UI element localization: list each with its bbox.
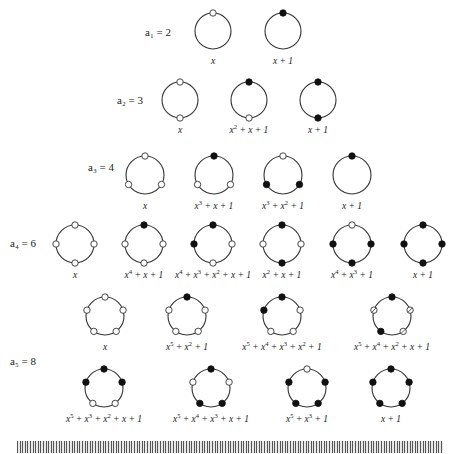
- necklace-ring: [231, 82, 267, 118]
- bead-open: [125, 181, 131, 187]
- necklace: x4 + x3 + 1: [330, 222, 374, 280]
- bead-filled: [286, 379, 292, 385]
- diagram-row-5: a₅ = 8xx5 + x2 + 1x5 + x4 + x3 + x2 + 1x…: [10, 294, 430, 367]
- bead-open: [173, 328, 179, 334]
- bead-open: [120, 307, 126, 313]
- bead-open: [227, 181, 233, 187]
- bead-filled: [246, 79, 252, 85]
- bead-filled: [315, 79, 321, 85]
- bead-filled: [378, 328, 384, 334]
- bead-filled: [279, 222, 285, 228]
- bead-filled: [401, 241, 407, 247]
- diagram-row-2: a₂ = 3xx2 + x + 1x + 1: [117, 79, 336, 135]
- necklace: x: [162, 79, 198, 135]
- necklace: x: [195, 10, 231, 66]
- necklace-ring: [195, 13, 231, 49]
- necklace-ring: [195, 156, 233, 194]
- row-count-label: a₅ = 8: [10, 355, 36, 367]
- bead-filled: [420, 260, 426, 266]
- bead-open: [142, 153, 148, 159]
- polynomial-label: x: [177, 125, 183, 135]
- row-count-label: a₄ = 6: [10, 237, 36, 249]
- bead-filled: [330, 241, 336, 247]
- polynomial-label: x: [102, 342, 108, 352]
- bead-filled: [210, 222, 216, 228]
- necklace: x: [125, 153, 164, 211]
- bead-open: [304, 366, 310, 372]
- bead-open: [246, 115, 252, 121]
- bead-open: [113, 328, 119, 334]
- bead-open: [290, 328, 296, 334]
- necklace-ring: [263, 225, 301, 263]
- bead-filled: [279, 294, 285, 300]
- bead-filled: [315, 115, 321, 121]
- bead-open: [177, 79, 183, 85]
- bead-filled: [261, 307, 267, 313]
- polynomial-label: x: [142, 201, 148, 211]
- bead-filled: [377, 400, 383, 406]
- polynomial-label: x3 + x2 + 1: [261, 199, 304, 211]
- necklace: x5 + x3 + x2 + x + 1: [65, 366, 142, 424]
- bead-filled: [420, 222, 426, 228]
- necklace-ring: [300, 82, 336, 118]
- necklace-ring: [265, 13, 301, 49]
- barcode-strip: [17, 441, 443, 453]
- necklace-ring: [126, 156, 164, 194]
- bead-open: [160, 241, 166, 247]
- bead-open: [210, 260, 216, 266]
- polynomial-label: x5 + x3 + x2 + x + 1: [65, 412, 142, 424]
- necklace: x: [84, 294, 127, 352]
- necklace: x4 + x + 1: [122, 222, 166, 280]
- bead-filled: [119, 379, 125, 385]
- polynomial-label: x2 + x + 1: [262, 268, 302, 280]
- polynomial-label: x5 + x2 + 1: [165, 340, 208, 352]
- row-count-label: a₂ = 3: [117, 94, 143, 106]
- polynomial-label: x4 + x + 1: [124, 268, 164, 280]
- bead-filled: [211, 153, 217, 159]
- bead-open: [141, 260, 147, 266]
- necklace-ring: [333, 225, 371, 263]
- bead-filled: [349, 153, 355, 159]
- necklace: x + 1: [300, 79, 336, 135]
- necklace: x: [53, 222, 97, 280]
- polynomial-label: x4 + x3 + x2 + x + 1: [174, 268, 251, 280]
- necklace: x4 + x3 + x2 + x + 1: [174, 222, 251, 280]
- bead-filled: [219, 400, 225, 406]
- bead-open: [122, 241, 128, 247]
- bead-filled: [208, 366, 214, 372]
- bead-filled: [370, 379, 376, 385]
- necklace-diagram: a₁ = 2xx + 1a₂ = 3xx2 + x + 1x + 1a₃ = 4…: [0, 0, 459, 454]
- bead-filled: [197, 400, 203, 406]
- bead-open: [91, 328, 97, 334]
- bead-open: [72, 260, 78, 266]
- necklace-ring: [264, 156, 302, 194]
- bead-filled: [101, 366, 107, 372]
- bead-filled: [322, 379, 328, 385]
- polynomial-label: x5 + x4 + x3 + x + 1: [172, 412, 249, 424]
- row-count-label: a₃ = 4: [88, 161, 114, 173]
- bead-filled: [388, 366, 394, 372]
- polynomial-label: x + 1: [272, 56, 293, 66]
- necklace: x5 + x3 + 1: [285, 366, 328, 424]
- bead-open: [202, 307, 208, 313]
- bead-filled: [406, 379, 412, 385]
- necklace: x + 1: [265, 10, 301, 66]
- bead-open: [166, 307, 172, 313]
- polynomial-label: x4 + x3 + 1: [330, 268, 373, 280]
- bead-filled: [83, 379, 89, 385]
- bead-open: [158, 181, 164, 187]
- bead-open: [84, 307, 90, 313]
- necklace: x5 + x4 + x3 + x + 1: [172, 366, 249, 424]
- necklace-ring: [56, 225, 94, 263]
- bead-open: [349, 222, 355, 228]
- polynomial-label: x + 1: [412, 270, 433, 280]
- bead-open: [226, 379, 232, 385]
- necklace: x2 + x + 1: [229, 79, 269, 135]
- bead-open: [190, 379, 196, 385]
- bead-open: [297, 307, 303, 313]
- row-count-label: a₁ = 2: [145, 26, 171, 38]
- necklace-ring: [333, 156, 371, 194]
- bead-open: [91, 241, 97, 247]
- bead-filled: [368, 241, 374, 247]
- bead-filled: [399, 400, 405, 406]
